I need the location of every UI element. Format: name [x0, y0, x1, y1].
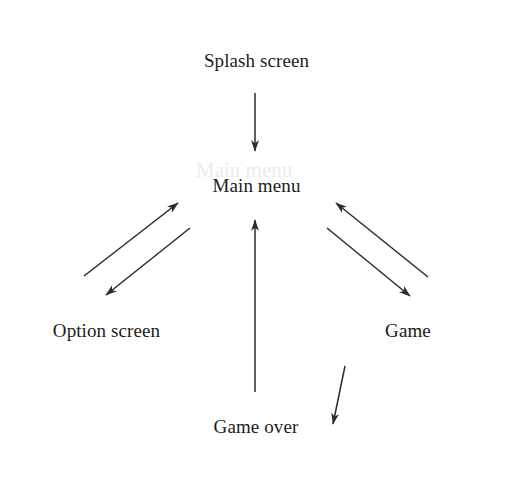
edge-option-to-main: [84, 203, 178, 276]
node-option-screen[interactable]: Option screen: [31, 297, 182, 363]
node-label: Main menu: [213, 176, 301, 195]
node-label: Game over: [214, 417, 299, 436]
edge-main-to-game: [327, 228, 410, 296]
node-main-menu[interactable]: Main menu: [182, 152, 331, 218]
node-splash-screen[interactable]: Splash screen: [182, 27, 331, 93]
node-label: Game: [385, 321, 431, 340]
node-label: Option screen: [53, 321, 160, 340]
edge-main-to-option: [106, 228, 190, 295]
node-game-over[interactable]: Game over: [182, 393, 330, 460]
flow-diagram-canvas: Main menu screen Splash screen Main menu…: [0, 0, 507, 480]
node-label: Splash screen: [204, 51, 309, 70]
node-game[interactable]: Game: [333, 297, 483, 363]
edge-game-to-main: [336, 203, 428, 277]
edge-game-to-gameover: [333, 366, 345, 424]
